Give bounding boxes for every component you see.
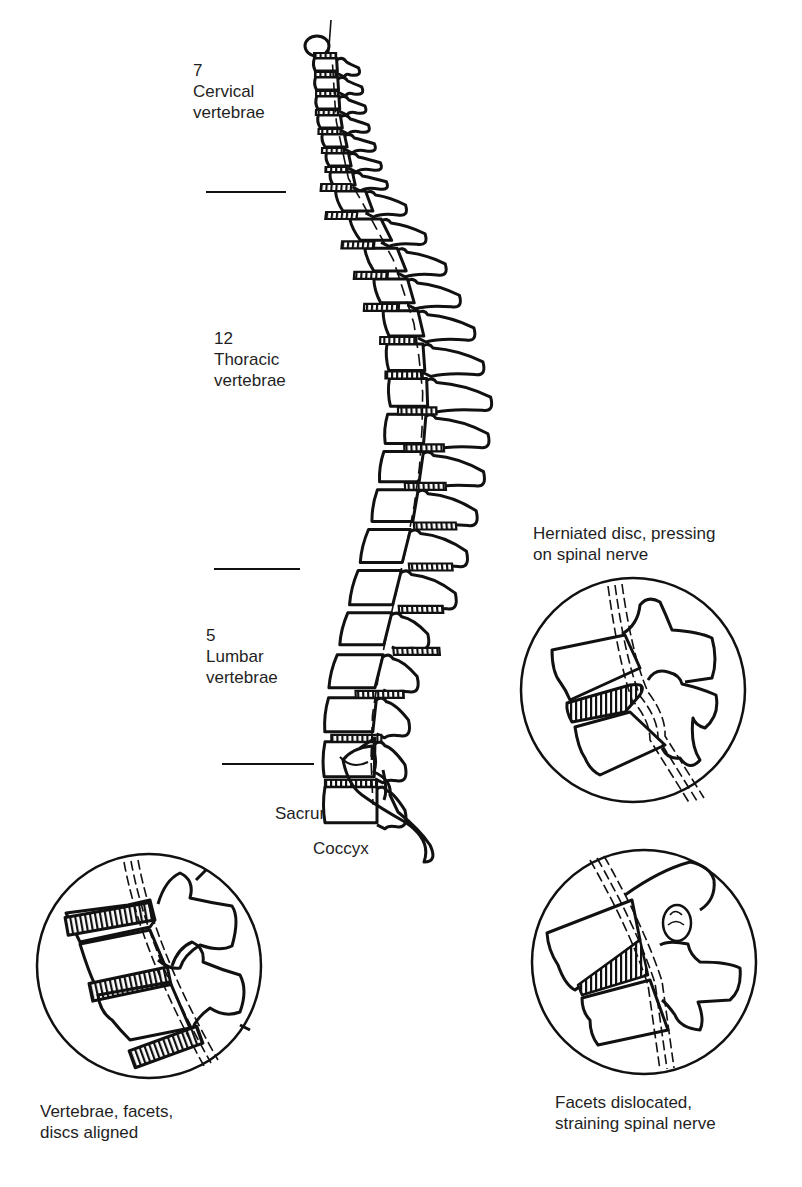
cervical-spinous-process bbox=[344, 134, 375, 153]
intervertebral-disc bbox=[380, 337, 416, 344]
lumbar-vertebra-body bbox=[340, 613, 392, 645]
thoracic-spinous-process bbox=[418, 311, 475, 342]
cervical-spinous-process bbox=[348, 153, 381, 172]
inset-aligned-vertebrae bbox=[37, 854, 261, 1078]
intervertebral-disc bbox=[322, 148, 344, 153]
intervertebral-disc bbox=[405, 483, 446, 490]
intervertebral-disc bbox=[385, 372, 422, 379]
intervertebral-disc bbox=[354, 272, 388, 279]
cervical-vertebra-body bbox=[315, 77, 339, 90]
intervertebral-disc bbox=[341, 241, 374, 248]
intervertebral-disc bbox=[314, 53, 336, 58]
cervical-spinous-process bbox=[337, 58, 360, 77]
inset-dislocated-facets bbox=[532, 850, 756, 1074]
dislocated-facet bbox=[663, 905, 691, 941]
thoracic-vertebra-body bbox=[360, 530, 410, 563]
thoracic-spinous-process bbox=[407, 279, 460, 309]
lumbar-vertebra-body bbox=[325, 698, 377, 732]
cervical-vertebra-body bbox=[316, 96, 340, 109]
spinous-process bbox=[625, 862, 714, 910]
intervertebral-disc bbox=[398, 407, 437, 414]
thoracic-vertebra-body bbox=[365, 248, 406, 271]
spinous-process bbox=[648, 671, 717, 766]
thoracic-vertebra-body bbox=[379, 451, 423, 481]
lumbar-vertebra-body bbox=[329, 655, 383, 688]
inset-herniated-disc bbox=[521, 578, 745, 804]
cervical-spinous-process bbox=[352, 172, 387, 191]
cervical-spinous-process bbox=[338, 77, 363, 96]
cervical-vertebra-body bbox=[313, 58, 337, 71]
intervertebral-disc bbox=[409, 564, 453, 571]
thoracic-vertebra-body bbox=[383, 311, 424, 336]
thoracic-vertebra-body bbox=[350, 571, 402, 605]
intervertebral-disc bbox=[321, 184, 352, 191]
lumbar-vertebra-body bbox=[324, 787, 378, 823]
spine-column bbox=[305, 20, 492, 829]
cervical-vertebra-body bbox=[318, 115, 343, 128]
cervical-vertebra-body bbox=[322, 134, 347, 147]
intervertebral-disc bbox=[364, 304, 399, 311]
thoracic-vertebra-body bbox=[374, 279, 414, 303]
spine-illustration bbox=[0, 0, 802, 1187]
intervertebral-disc bbox=[316, 110, 338, 115]
disc-hatched bbox=[567, 684, 643, 722]
intervertebral-disc bbox=[356, 691, 404, 698]
intervertebral-disc bbox=[414, 523, 457, 530]
facet-detail bbox=[668, 912, 684, 926]
disc-hatched bbox=[578, 940, 648, 995]
lumbar-spinous-process bbox=[377, 698, 410, 738]
intervertebral-disc bbox=[399, 606, 444, 613]
vertebra-body bbox=[575, 712, 665, 775]
spinous-process bbox=[660, 942, 740, 1030]
lumbar-spinous-process bbox=[392, 613, 429, 651]
thoracic-vertebra-body bbox=[385, 414, 426, 443]
spinous-process bbox=[158, 873, 236, 968]
intervertebral-disc bbox=[325, 167, 347, 172]
cervical-spinous-process bbox=[340, 115, 369, 134]
lumbar-spinous-process bbox=[383, 655, 418, 694]
intervertebral-disc bbox=[325, 212, 357, 219]
cervical-vertebra-body bbox=[326, 153, 351, 166]
thoracic-vertebra-body bbox=[336, 191, 373, 211]
intervertebral-disc bbox=[393, 648, 440, 655]
thoracic-vertebra-body bbox=[372, 490, 418, 522]
thoracic-spinous-process bbox=[423, 344, 484, 376]
intervertebral-disc bbox=[404, 444, 444, 451]
spinous-process bbox=[172, 942, 244, 1030]
cervical-spinous-process bbox=[339, 96, 366, 115]
